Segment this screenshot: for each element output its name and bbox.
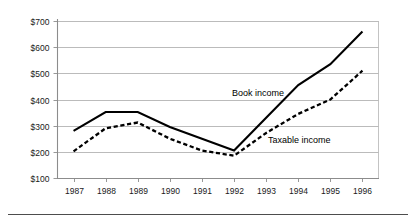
x-axis-tick-label: 1992 [225,186,244,196]
series-label-taxable-income: Taxable income [268,135,331,145]
x-axis-tick-label: 1996 [353,186,372,196]
x-axis-tick-label: 1988 [97,186,116,196]
x-axis-tick-label: 1990 [161,186,180,196]
series-label-book-income: Book income [232,88,284,98]
y-axis-tick-label: $100 [31,174,50,184]
x-axis-tick-label: 1994 [289,186,308,196]
x-axis-tick-label: 1989 [129,186,148,196]
line-chart-figure: $100$200$300$400$500$600$700 19871988198… [0,0,416,223]
y-axis-tick-label: $500 [31,69,50,79]
y-axis-tick-label: $600 [31,43,50,53]
y-axis-tick-label: $200 [31,148,50,158]
x-axis-tick-label: 1987 [65,186,84,196]
y-axis-tick-label: $700 [31,17,50,27]
x-axis-tick-label: 1991 [193,186,212,196]
y-axis-tick-label: $300 [31,122,50,132]
chart-canvas: $100$200$300$400$500$600$700 19871988198… [0,0,416,223]
x-axis-tick-label: 1993 [257,186,276,196]
x-axis-tick-label: 1995 [321,186,340,196]
y-axis-tick-label: $400 [31,96,50,106]
